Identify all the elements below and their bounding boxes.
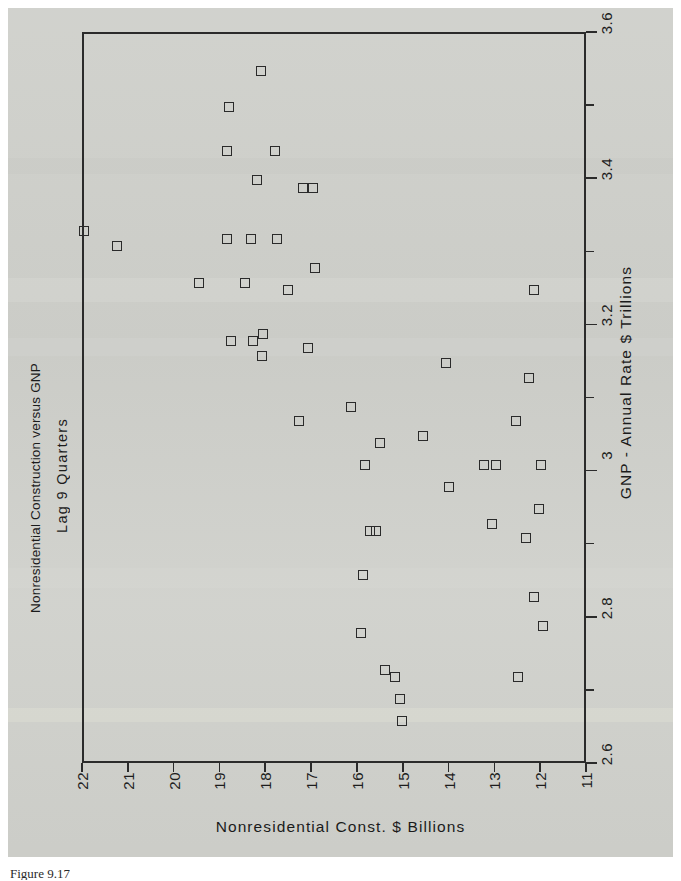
x-axis-tick-label: 13 bbox=[486, 772, 503, 790]
data-point bbox=[513, 672, 523, 682]
data-point bbox=[375, 438, 385, 448]
data-point bbox=[272, 234, 282, 244]
data-point bbox=[222, 234, 232, 244]
y-axis-tick bbox=[586, 324, 597, 326]
x-axis-tick bbox=[81, 763, 83, 772]
figure-page: Nonresidential Construction versus GNP L… bbox=[0, 0, 681, 881]
y-axis-title: GNP - Annual Rate $ Trillions bbox=[611, 0, 641, 765]
data-point bbox=[310, 263, 320, 273]
x-axis-tick-label: 18 bbox=[257, 772, 274, 790]
data-point bbox=[487, 519, 497, 529]
x-axis-tick bbox=[402, 763, 404, 772]
data-point bbox=[536, 460, 546, 470]
data-point bbox=[371, 526, 381, 536]
data-point bbox=[479, 460, 489, 470]
chart-title-block: Nonresidential Construction versus GNP L… bbox=[26, 32, 82, 763]
data-point bbox=[441, 358, 451, 368]
data-point bbox=[511, 416, 521, 426]
data-point bbox=[538, 621, 548, 631]
data-point bbox=[529, 592, 539, 602]
data-point bbox=[397, 716, 407, 726]
x-axis-tick-label: 16 bbox=[349, 772, 366, 790]
data-point bbox=[346, 402, 356, 412]
y-axis-tick bbox=[586, 31, 597, 33]
data-point bbox=[194, 278, 204, 288]
y-axis-title-text: GNP - Annual Rate $ Trillions bbox=[617, 266, 635, 499]
x-axis-tick-label: 11 bbox=[578, 772, 595, 789]
data-point bbox=[224, 102, 234, 112]
data-point bbox=[491, 460, 501, 470]
x-axis-tick bbox=[127, 763, 129, 772]
x-axis-tick-label: 21 bbox=[120, 772, 137, 790]
data-point bbox=[298, 183, 308, 193]
x-axis-tick bbox=[539, 763, 541, 772]
data-point bbox=[294, 416, 304, 426]
x-axis-tick bbox=[219, 763, 221, 772]
data-point bbox=[360, 460, 370, 470]
data-point bbox=[79, 226, 89, 236]
data-point bbox=[524, 373, 534, 383]
data-point bbox=[112, 241, 122, 251]
data-point bbox=[222, 146, 232, 156]
y-axis-tick bbox=[586, 616, 597, 618]
y-axis-tick bbox=[586, 762, 597, 764]
x-axis-tick-label: 12 bbox=[532, 772, 549, 790]
data-point bbox=[529, 285, 539, 295]
data-point bbox=[356, 628, 366, 638]
y-axis-minor-tick bbox=[586, 543, 594, 545]
x-axis-tick bbox=[264, 763, 266, 772]
data-point bbox=[390, 672, 400, 682]
x-axis-tick-label: 14 bbox=[441, 772, 458, 790]
chart-subtitle: Lag 9 Quarters bbox=[54, 418, 70, 533]
data-point bbox=[358, 570, 368, 580]
x-axis-tick bbox=[585, 763, 587, 772]
y-axis-minor-tick bbox=[586, 397, 594, 399]
x-axis-tick-label: 22 bbox=[74, 772, 91, 790]
x-axis-tick-label: 20 bbox=[166, 772, 183, 790]
y-axis-minor-tick bbox=[586, 689, 594, 691]
x-axis-tick-label: 19 bbox=[211, 772, 228, 790]
y-axis-tick bbox=[586, 177, 597, 179]
x-axis-tick bbox=[173, 763, 175, 772]
x-axis-tick bbox=[356, 763, 358, 772]
data-point bbox=[257, 351, 267, 361]
x-axis-tick bbox=[448, 763, 450, 772]
data-point bbox=[246, 234, 256, 244]
data-point bbox=[395, 694, 405, 704]
x-axis-tick-label: 15 bbox=[395, 772, 412, 790]
y-axis-minor-tick bbox=[586, 104, 594, 106]
x-axis-title: Nonresidential Const. $ Billions bbox=[0, 818, 681, 836]
data-point bbox=[226, 336, 236, 346]
y-axis-minor-tick bbox=[586, 251, 594, 253]
data-point bbox=[252, 175, 262, 185]
figure-caption: Figure 9.17 bbox=[10, 866, 70, 880]
chart-title: Nonresidential Construction versus GNP bbox=[28, 363, 43, 613]
data-point bbox=[248, 336, 258, 346]
x-axis-tick bbox=[310, 763, 312, 772]
data-point bbox=[270, 146, 280, 156]
data-point bbox=[444, 482, 454, 492]
data-point bbox=[521, 533, 531, 543]
data-point bbox=[303, 343, 313, 353]
data-point bbox=[258, 329, 268, 339]
data-point bbox=[418, 431, 428, 441]
data-point bbox=[240, 278, 250, 288]
data-point bbox=[283, 285, 293, 295]
y-axis-tick bbox=[586, 470, 597, 472]
data-point bbox=[308, 183, 318, 193]
data-point bbox=[256, 66, 266, 76]
x-axis-tick bbox=[494, 763, 496, 772]
data-point bbox=[534, 504, 544, 514]
scatter-plot-area bbox=[82, 32, 586, 763]
x-axis-tick-label: 17 bbox=[303, 772, 320, 790]
